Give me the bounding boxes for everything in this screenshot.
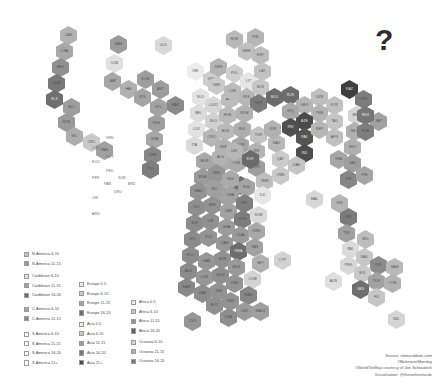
- legend-item[interactable]: S.America 11-15: [24, 340, 61, 348]
- legend-item[interactable]: Africa 0-5: [131, 298, 160, 306]
- legend-label: Africa 6-10: [139, 310, 158, 314]
- hex-tile[interactable]: STL: [150, 98, 167, 117]
- hex-tile[interactable]: GUA: [48, 74, 65, 93]
- hex-tile[interactable]: DJI: [254, 186, 271, 205]
- hex-tile[interactable]: BAH: [110, 35, 127, 54]
- legend-item[interactable]: Caribbean 11-15: [24, 282, 61, 290]
- legend-item[interactable]: Europe 16-20: [79, 309, 111, 317]
- hex-tile[interactable]: GLD: [155, 36, 172, 55]
- hex-tile[interactable]: DOM: [137, 70, 154, 89]
- legend-item[interactable]: Asia 21+: [79, 358, 106, 366]
- hex-tile[interactable]: USA: [56, 42, 73, 61]
- hex-tile[interactable]: GAB: [198, 252, 215, 271]
- legend-item[interactable]: S.America 16-20: [24, 349, 61, 357]
- hex-tile[interactable]: TON: [384, 274, 401, 293]
- hex-tile[interactable]: MAU2: [252, 302, 269, 321]
- hex-tile[interactable]: FIJ: [368, 288, 385, 307]
- legend-item[interactable]: Asia 6-10: [79, 330, 106, 338]
- legend-item[interactable]: Asia 11-15: [79, 339, 106, 347]
- legend-item[interactable]: N.America 6-10: [24, 250, 61, 258]
- hex-tile[interactable]: IRE: [187, 62, 204, 81]
- legend-item[interactable]: Caribbean 6-10: [24, 272, 61, 280]
- legend-item[interactable]: Africa 16-20: [131, 327, 160, 335]
- hex-tile[interactable]: ELS: [46, 90, 63, 109]
- hex-tile[interactable]: SAM: [386, 258, 403, 277]
- hex-tile-label: BKF: [209, 204, 216, 207]
- legend-item[interactable]: Oceania 6-10: [131, 338, 165, 346]
- hex-tile[interactable]: LUX: [188, 120, 205, 139]
- hex-tile[interactable]: SVG: [148, 114, 165, 133]
- hex-tile-label: LUX2: [209, 104, 218, 107]
- hex-tile[interactable]: TIM: [338, 224, 355, 243]
- hex-tile[interactable]: CVD: [184, 312, 201, 331]
- hex-tile-label: MIC: [362, 238, 369, 241]
- hex-tile-label: ECO: [187, 254, 195, 257]
- hex-tile[interactable]: TOG: [200, 228, 217, 247]
- hex-tile[interactable]: CAN: [60, 26, 77, 45]
- legend-label: Oceania 11-15: [139, 350, 164, 354]
- hex-tile[interactable]: ECO: [182, 246, 199, 265]
- hex-tile[interactable]: MAD: [240, 286, 257, 305]
- hex-tile[interactable]: ANT: [152, 80, 169, 99]
- hex-tile-label: CON: [201, 276, 209, 279]
- legend-item[interactable]: Asia 0-5: [79, 320, 106, 328]
- hex-tile[interactable]: NZL: [388, 310, 405, 329]
- hex-tile[interactable]: VAN: [352, 280, 369, 299]
- legend-item[interactable]: C.America 11-15: [24, 315, 61, 323]
- hex-tile-label: JOR: [269, 128, 276, 131]
- legend-swatch: [24, 274, 29, 279]
- hex-tile[interactable]: MAL: [306, 190, 323, 209]
- legend-item[interactable]: Caribbean 16-20: [24, 291, 61, 299]
- hex-tile-label: SOL: [359, 272, 366, 275]
- legend-swatch: [79, 341, 84, 346]
- hex-tile[interactable]: CON: [196, 268, 213, 287]
- hex-tile[interactable]: COM: [244, 270, 261, 289]
- legend-item[interactable]: Oceania 16-20: [131, 357, 165, 365]
- legend-item[interactable]: C.America 6-10: [24, 305, 61, 313]
- hex-tile[interactable]: KEN: [248, 222, 265, 241]
- legend-item[interactable]: S.America 21+: [24, 359, 61, 367]
- hex-tile[interactable]: SOM: [250, 206, 267, 225]
- legend-item[interactable]: Europe 6-10: [79, 290, 111, 298]
- hex-tile[interactable]: VIE: [340, 170, 357, 189]
- hex-tile[interactable]: GUI: [188, 198, 205, 217]
- hex-tile[interactable]: LIB: [202, 212, 219, 231]
- legend-item[interactable]: Africa 6-10: [131, 308, 160, 316]
- hex-tile[interactable]: IVC: [184, 230, 201, 249]
- hex-tile[interactable]: JAM: [104, 72, 121, 91]
- legend-item[interactable]: Europe 11-15: [79, 299, 111, 307]
- hex-tile[interactable]: ITA: [186, 136, 203, 155]
- hex-tile[interactable]: TTO: [142, 160, 159, 179]
- hex-tile[interactable]: BAR: [167, 96, 184, 115]
- legend-item[interactable]: Asia 16-20: [79, 349, 106, 357]
- hex-tile-label: PAK: [301, 136, 308, 139]
- hex-tile[interactable]: RSA: [220, 308, 237, 327]
- hex-tile[interactable]: ANG: [180, 262, 197, 281]
- hex-tile[interactable]: GRA: [146, 130, 163, 149]
- hex-tile-label: TKM: [316, 112, 323, 115]
- hex-tile[interactable]: BUL: [234, 120, 251, 139]
- hex-tile-label: UZB: [316, 96, 323, 99]
- hex-tile-label: UKR: [255, 102, 262, 105]
- hex-tile[interactable]: NEP: [311, 120, 328, 139]
- hex-tile[interactable]: SLE: [186, 214, 203, 233]
- legend-item[interactable]: Africa 11-15: [131, 317, 160, 325]
- legend-item[interactable]: N.America 11-15: [24, 260, 61, 268]
- legend-item[interactable]: Europe 0-5: [79, 280, 111, 288]
- legend-label: Africa 0-5: [139, 300, 156, 304]
- hex-tile[interactable]: MIC: [357, 230, 374, 249]
- hex-tile[interactable]: AUS: [325, 272, 342, 291]
- hex-tile[interactable]: BEL: [190, 104, 207, 123]
- hex-tile-label: ZIM2: [230, 282, 238, 285]
- hex-tile[interactable]: CYP: [274, 251, 291, 270]
- hex-tile[interactable]: NAM: [178, 278, 195, 297]
- legend-item[interactable]: S.America 6-10: [24, 330, 61, 338]
- hex-tile[interactable]: MEX: [52, 58, 69, 77]
- legend-label: Oceania 6-10: [139, 340, 162, 344]
- hex-tile-label: KEN: [253, 230, 260, 233]
- legend-swatch: [24, 351, 29, 356]
- hex-tile[interactable]: AFG: [326, 128, 343, 147]
- hex-tile[interactable]: OMN: [272, 166, 289, 185]
- legend-item[interactable]: Oceania 11-15: [131, 348, 165, 356]
- hex-tile[interactable]: CUB: [106, 54, 123, 73]
